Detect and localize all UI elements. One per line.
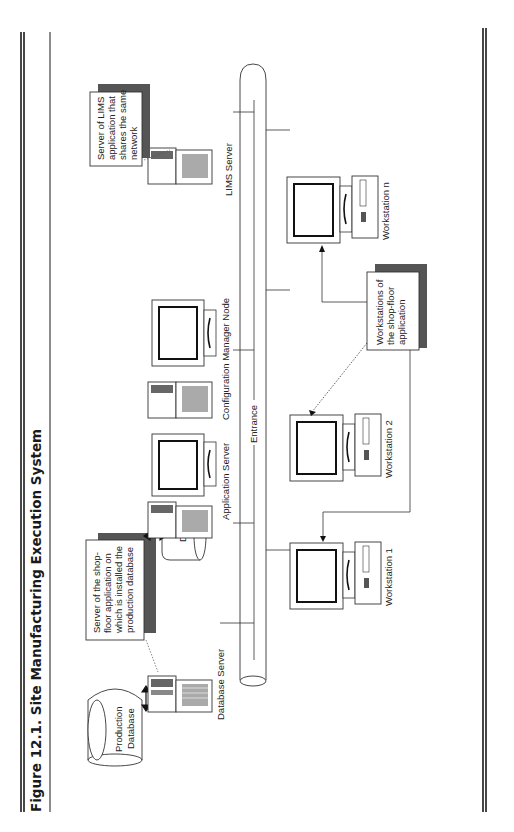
database-server: Database Server — [148, 649, 226, 720]
network-diagram: Figure 12.1. Site Manufacturing Executio… — [0, 0, 514, 832]
callout-lims-line3: shares the same — [117, 90, 128, 160]
production-database-line2: Database — [125, 708, 136, 749]
figure-title: Figure 12.1. Site Manufacturing Executio… — [28, 429, 44, 812]
lims-server: LIMS Server — [148, 143, 234, 196]
figure-page: Figure 12.1. Site Manufacturing Executio… — [0, 0, 514, 832]
database-server-label: Database Server — [215, 649, 226, 720]
entrance-label: Entrance — [248, 405, 259, 443]
callout-shopfloor-line4: production database — [124, 547, 135, 633]
callout-workstations-line3: application — [396, 300, 407, 345]
callout-shopfloor-server: Server of the shop- floor application on… — [86, 533, 158, 672]
callout-workstations-line2: the shop-floor — [385, 287, 396, 345]
callout-lims-line2: application that — [106, 96, 117, 160]
workstation-n-label: Workstation n — [380, 182, 391, 240]
callout-shopfloor-line3: which is installed the — [113, 546, 124, 634]
callout-arrowheads — [309, 245, 326, 542]
callout-shopfloor-line2: floor application on — [102, 553, 113, 633]
callout-workstations: Workstations of the shop-floor applicati… — [367, 264, 427, 350]
production-database-line1: Production — [113, 707, 124, 752]
workstation-2: Workstation 2 — [290, 414, 394, 481]
workstation-n: Workstation n — [287, 176, 391, 243]
application-server: Application Server — [148, 434, 231, 538]
callout-lims-line4: network — [128, 126, 139, 160]
workstation-1-label: Workstation 1 — [383, 548, 394, 606]
lims-server-label: LIMS Server — [223, 143, 234, 196]
configuration-manager-label: Configuration Manager Node — [220, 298, 231, 420]
callout-workstations-line1: Workstations of — [374, 279, 385, 345]
configuration-manager-node: Configuration Manager Node — [148, 298, 231, 420]
network-backbone — [240, 64, 266, 686]
application-server-label: Application Server — [220, 443, 231, 520]
production-database: Production Database — [88, 689, 142, 766]
workstation-1: Workstation 1 — [290, 542, 394, 609]
callout-lims-line1: Server of LIMS — [95, 97, 106, 160]
callout-shopfloor-line1: Server of the shop- — [91, 552, 102, 633]
workstation-2-label: Workstation 2 — [383, 420, 394, 478]
